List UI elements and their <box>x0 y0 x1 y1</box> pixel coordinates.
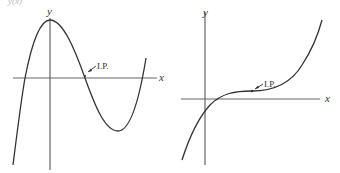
figure-canvas: y(x) y x I.P. y x I.P. <box>0 0 340 173</box>
right-graph: y x I.P. <box>181 6 330 165</box>
right-ip-arrowhead-icon <box>255 86 259 90</box>
header-fragment: y(x) <box>7 0 22 6</box>
left-cubic-curve <box>13 20 146 165</box>
left-graph: y x I.P. <box>13 5 164 170</box>
inflection-point-figure: y(x) y x I.P. y x I.P. <box>0 0 340 173</box>
left-inflection-point <box>84 75 86 77</box>
left-ip-label: I.P. <box>97 61 109 71</box>
right-y-label: y <box>202 6 208 18</box>
right-x-label: x <box>324 92 330 104</box>
left-x-label: x <box>158 71 164 83</box>
right-ip-label: I.P. <box>264 79 276 89</box>
left-y-label: y <box>46 5 52 17</box>
right-inflection-point <box>251 90 253 92</box>
